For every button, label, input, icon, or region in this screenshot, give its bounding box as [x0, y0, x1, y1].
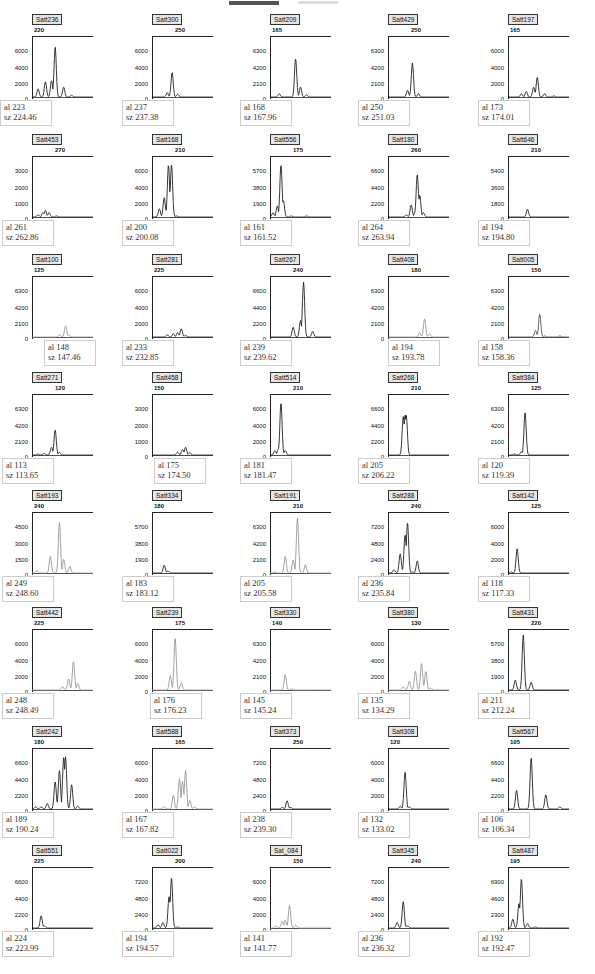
- allele-call-box: al 145 sz 145.24: [240, 693, 292, 719]
- y-tick-label: 4800: [122, 896, 148, 902]
- y-tick-label: 4200: [240, 541, 266, 547]
- signal-trace: [32, 276, 93, 338]
- electropherogram-panel-satt453: Satt453 270 3000 2000 1000 0 al 261 sz 2…: [0, 134, 118, 254]
- signal-trace: [270, 867, 331, 929]
- allele-value: al 205: [362, 460, 406, 470]
- x-reference-tick: 240: [411, 503, 421, 509]
- signal-trace: [388, 629, 449, 691]
- allele-value: al 189: [6, 814, 50, 824]
- allele-value: al 132: [362, 814, 406, 824]
- y-tick-label: 4000: [358, 658, 384, 664]
- size-value: sz 113.65: [6, 470, 50, 480]
- y-tick-label: 4000: [2, 65, 28, 71]
- electropherogram-panel-satt268: Satt268 210 6600 4400 2200 0 al 205 sz 2…: [356, 372, 474, 492]
- marker-label: Satt100: [32, 254, 62, 265]
- y-tick-label: 2300: [478, 912, 504, 918]
- allele-call-box: al 236 sz 236.32: [358, 931, 410, 957]
- signal-trace: [32, 867, 93, 929]
- electropherogram-panel-satt271: Satt271 120 6300 4200 2100 0 al 113 sz 1…: [0, 372, 118, 492]
- y-tick-label: 2100: [358, 81, 384, 87]
- x-reference-tick: 175: [175, 620, 185, 626]
- y-tick-label: 2100: [2, 439, 28, 445]
- y-tick-label: 4000: [240, 423, 266, 429]
- electropherogram-panel-satt380: Satt380 130 6000 4000 2000 0 al 135 sz 1…: [356, 607, 474, 727]
- marker-label: Satt458: [152, 372, 182, 383]
- allele-value: al 223: [4, 102, 48, 112]
- y-tick-label: 4000: [122, 658, 148, 664]
- size-value: sz 134.29: [362, 705, 406, 715]
- marker-label: Satt345: [388, 845, 418, 856]
- size-value: sz 147.46: [48, 352, 92, 362]
- electropherogram-panel-satt267: Satt267 240 6600 4400 2200 0 al 239 sz 2…: [238, 254, 356, 374]
- electropherogram-panel-satt300: Satt300 250 6000 4000 2000 0 al 237 sz 2…: [120, 14, 238, 134]
- signal-trace: [508, 629, 569, 691]
- allele-value: al 236: [362, 933, 406, 943]
- allele-value: al 239: [244, 342, 288, 352]
- x-reference-tick: 165: [272, 27, 282, 33]
- x-reference-tick: 125: [531, 503, 541, 509]
- allele-call-box: al 106 sz 106.34: [478, 812, 530, 838]
- marker-label: Satt268: [388, 372, 418, 383]
- x-reference-tick: 165: [175, 739, 185, 745]
- electropherogram-panel-satt442: Satt442 225 6000 4000 2000 0 al 248 sz 2…: [0, 607, 118, 727]
- allele-value: al 224: [6, 933, 50, 943]
- size-value: sz 167.82: [126, 824, 170, 834]
- y-tick-label: 7200: [358, 524, 384, 530]
- signal-trace: [270, 36, 331, 98]
- signal-trace: [508, 36, 569, 98]
- allele-value: al 120: [482, 460, 526, 470]
- marker-label: Satt384: [508, 372, 538, 383]
- y-tick-label: 3000: [2, 541, 28, 547]
- allele-value: al 173: [482, 102, 526, 112]
- allele-call-box: al 120 sz 119.39: [478, 458, 530, 484]
- y-tick-label: 4500: [2, 524, 28, 530]
- y-tick-label: 2000: [478, 557, 504, 563]
- y-tick-label: 4200: [358, 65, 384, 71]
- allele-call-box: al 173 sz 174.01: [478, 100, 530, 126]
- allele-call-box: al 205 sz 206.22: [358, 458, 410, 484]
- x-reference-tick: 270: [55, 147, 65, 153]
- signal-trace: [388, 867, 449, 929]
- x-reference-tick: 260: [411, 147, 421, 153]
- marker-label: Satt334: [152, 490, 182, 501]
- y-tick-label: 2000: [122, 81, 148, 87]
- y-tick-label: 2100: [240, 81, 266, 87]
- allele-value: al 158: [482, 342, 526, 352]
- allele-value: al 248: [6, 695, 50, 705]
- electropherogram-panel-satt330: Satt330 140 6300 4200 2100 0 al 145 sz 1…: [238, 607, 356, 727]
- electropherogram-panel-satt487: Satt487 195 6900 4600 2300 0 al 192 sz 1…: [476, 845, 594, 965]
- allele-value: al 135: [362, 695, 406, 705]
- allele-value: al 192: [482, 933, 526, 943]
- x-reference-tick: 225: [154, 267, 164, 273]
- size-value: sz 181.47: [244, 470, 288, 480]
- marker-label: Satt193: [32, 490, 62, 501]
- allele-call-box: al 181 sz 181.47: [240, 458, 292, 484]
- y-tick-label: 4000: [122, 777, 148, 783]
- signal-trace: [152, 629, 213, 691]
- allele-value: al 167: [126, 814, 170, 824]
- allele-call-box: al 233 sz 232.85: [122, 340, 174, 366]
- allele-call-box: al 237 sz 237.38: [122, 100, 174, 126]
- y-tick-label: 2100: [2, 321, 28, 327]
- marker-label: Satt431: [508, 607, 538, 618]
- signal-trace: [270, 276, 331, 338]
- y-tick-label: 1000: [122, 439, 148, 445]
- allele-call-box: al 250 sz 251.03: [358, 100, 410, 126]
- x-reference-tick: 180: [154, 503, 164, 509]
- allele-call-box: al 192 sz 192.47: [478, 931, 530, 957]
- allele-value: al 175: [158, 460, 202, 470]
- allele-value: al 194: [392, 342, 436, 352]
- y-tick-label: 6000: [122, 168, 148, 174]
- y-tick-label: 6000: [478, 48, 504, 54]
- y-tick-label: 2200: [2, 912, 28, 918]
- electropherogram-panel-satt209: Satt209 165 6300 4200 2100 0 al 168 sz 1…: [238, 14, 356, 134]
- allele-call-box: al 194 sz 193.78: [388, 340, 440, 366]
- x-reference-tick: 125: [34, 267, 44, 273]
- signal-trace: [32, 394, 93, 456]
- x-reference-tick: 120: [390, 739, 400, 745]
- electropherogram-panel-satt458: Satt458 150 3000 2000 1000 0 al 175 sz 1…: [120, 372, 238, 492]
- y-tick-label: 6300: [240, 48, 266, 54]
- electropherogram-panel-satt514: Satt514 210 6000 4000 2000 0 al 181 sz 1…: [238, 372, 356, 492]
- y-tick-label: 4200: [240, 65, 266, 71]
- size-value: sz 212.24: [482, 705, 526, 715]
